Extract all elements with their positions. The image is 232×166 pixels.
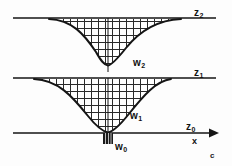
beam-waist-block	[103, 133, 113, 144]
label-plane-z2: z2	[194, 3, 203, 19]
label-beam-width-w1: w1	[130, 106, 142, 122]
label-beam-width-w2: w2	[133, 53, 145, 69]
figure-corner-caption: c	[210, 152, 214, 160]
label-x-axis: x	[192, 137, 197, 146]
upper-beam-hatch-fill	[40, 14, 192, 74]
x-axis-arrowhead	[209, 129, 219, 138]
label-plane-z1: z1	[194, 63, 203, 79]
label-beam-waist-w0: w0	[115, 137, 127, 153]
label-plane-z0: z0	[186, 117, 195, 133]
beam-propagation-figure: z2 z1 z0 x w2 w1 w0 c	[0, 0, 232, 166]
